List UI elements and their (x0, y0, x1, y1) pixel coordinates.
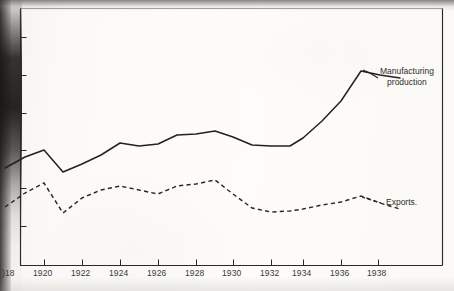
xtick-label-1922: 1922 (71, 268, 90, 278)
xtick-label-1936: 1936 (330, 268, 349, 278)
xtick-label-1920: 1920 (33, 268, 52, 278)
xtick-label-1928: 1928 (185, 268, 204, 278)
series-line-exports (5, 180, 400, 213)
xtick-label-1934: 1934 (292, 268, 311, 278)
xtick-label-1932: 1932 (260, 268, 279, 278)
xtick-label-1938: 1938 (367, 268, 386, 278)
chart-plot-area (0, 0, 454, 291)
label-leader-lines (362, 70, 381, 203)
chart-page: )18 1920 1922 1924 1926 1928 1930 1932 1… (0, 0, 454, 291)
series-label-exports: Exports. (386, 197, 417, 208)
xtick-label-1926: 1926 (147, 268, 166, 278)
series-label-manufacturing-production: Manufacturing production (380, 66, 434, 87)
series-label-manufacturing-line1: Manufacturing (380, 66, 434, 77)
xtick-label-1930: 1930 (222, 268, 241, 278)
xtick-label-1918: )18 (2, 268, 15, 278)
y-axis-ticks (21, 38, 27, 227)
x-axis-ticks (45, 260, 379, 266)
xtick-label-1924: 1924 (109, 268, 128, 278)
series-label-manufacturing-line2: production (380, 77, 434, 88)
series-line-manufacturing-production (5, 71, 400, 172)
